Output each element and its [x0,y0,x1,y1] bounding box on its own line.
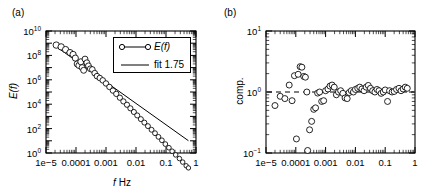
panel-a-xlabel: f Hz [42,178,202,188]
panel-a-ytick-1: 108 [7,50,41,61]
legend-marker-line-circles [118,38,152,56]
panel-a-ytick-5: 100 [7,148,41,159]
panel-a-ytick-3: 104 [7,99,41,110]
legend-label-ef-text: E(f) [154,41,170,52]
panel-a-xtick-5: 1 [166,158,226,168]
figure-container: (a) E(f) f Hz E(f) fit [0,0,438,196]
legend-label-ef: E(f) [154,42,170,52]
legend-marker-line [118,56,152,74]
panel-a-ytick-2: 106 [7,75,41,86]
panel-a-legend: E(f) fit 1.75 [113,37,191,73]
panel-b-ytick-2: 10−1 [227,148,261,159]
panel-b-xtick-5: 1 [385,158,438,168]
panel-a-ytick-4: 102 [7,124,41,135]
panel-a-xlabel-var: f [113,177,116,188]
legend-entry-fit: fit 1.75 [114,56,190,74]
panel-b-ytick-0: 101 [227,26,261,37]
panel-a-ytick-0: 1010 [7,26,41,37]
panel-b-ytick-1: 100 [227,87,261,98]
series-comp [272,64,410,154]
legend-label-fit: fit 1.75 [154,60,184,70]
panel-a-xlabel-unit: Hz [119,177,131,188]
legend-entry-ef: E(f) [114,38,190,56]
